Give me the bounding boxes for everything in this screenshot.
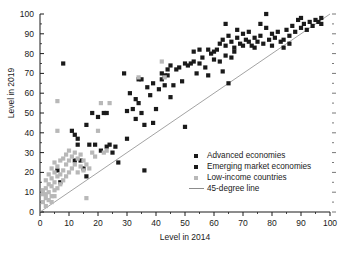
data-point [137,75,141,79]
data-point [125,109,129,113]
data-point [232,46,236,50]
data-point [84,123,88,127]
data-point [99,101,103,105]
data-point [41,188,45,192]
data-point [284,28,288,32]
data-point [52,170,56,174]
data-point [192,50,196,54]
data-point [61,61,65,65]
data-point [70,166,74,170]
data-point [110,151,114,155]
x-tick-label-10: 10 [64,219,73,228]
data-point [128,91,132,95]
legend-square-marker [194,176,198,180]
data-point [192,59,196,63]
data-point [55,99,59,103]
data-point [224,53,228,57]
y-tick-label-90: 90 [6,29,34,38]
legend-item-3[interactable]: 45-degree line [188,183,311,194]
data-point [67,170,71,174]
data-point [87,166,91,170]
y-tick-label-10: 10 [6,188,34,197]
data-point [108,143,112,147]
data-point [134,117,138,121]
data-point [270,44,274,48]
data-point [253,36,257,40]
plot-canvas [0,0,341,253]
data-point [221,38,225,42]
x-tick-label-90: 90 [296,219,305,228]
data-point [50,200,54,204]
data-point [113,145,117,149]
y-tick-label-30: 30 [6,148,34,157]
data-point [180,79,184,83]
data-point [79,164,83,168]
data-point [55,186,59,190]
data-point [311,24,315,28]
data-point [258,34,262,38]
data-point [41,200,45,204]
data-point [160,59,164,63]
data-point [64,174,68,178]
data-point [276,30,280,34]
data-point [151,121,155,125]
legend-item-0[interactable]: Advanced economies [188,150,311,161]
data-point [76,137,80,141]
scatter-chart: 0102030405060708090100 01020304050607080… [0,0,341,253]
data-point [52,160,56,164]
data-point [76,170,80,174]
legend-item-2[interactable]: Low-income countries [188,172,311,183]
data-point [73,151,77,155]
data-point [58,172,62,176]
x-tick-label-30: 30 [122,219,131,228]
legend-line-swatch [189,188,204,189]
data-point [137,101,141,105]
data-point [183,125,187,129]
data-point [61,168,65,172]
legend-item-1[interactable]: Emerging market economies [188,161,311,172]
data-point [200,55,204,59]
data-point [282,38,286,42]
data-point [52,180,56,184]
data-point [241,44,245,48]
data-point [287,42,291,46]
data-point [226,34,230,38]
data-point [151,81,155,85]
data-point [87,143,91,147]
data-point [52,194,56,198]
data-point [319,22,323,26]
data-point [84,174,88,178]
data-point [64,162,68,166]
data-point [287,34,291,38]
data-point [171,83,175,87]
data-point [290,24,294,28]
data-point [293,30,297,34]
data-point [212,57,216,61]
data-point [93,143,97,147]
data-point [50,166,54,170]
data-point [139,111,143,115]
data-point [299,26,303,30]
data-point [209,52,213,56]
data-point [61,178,65,182]
data-point [47,172,51,176]
data-point [81,158,85,162]
data-point [70,154,74,158]
data-point [55,164,59,168]
data-point [122,71,126,75]
data-point [168,63,172,67]
data-point [264,26,268,30]
data-point [215,48,219,52]
data-point [96,129,100,133]
data-point [44,204,48,208]
data-point [70,129,74,133]
legend-square-marker [194,165,198,169]
data-point [247,40,251,44]
data-point [197,48,201,52]
data-point [224,44,228,48]
data-point [206,48,210,52]
data-point [255,40,259,44]
data-point [235,36,239,40]
x-tick-label-50: 50 [180,219,189,228]
data-point [148,93,152,97]
